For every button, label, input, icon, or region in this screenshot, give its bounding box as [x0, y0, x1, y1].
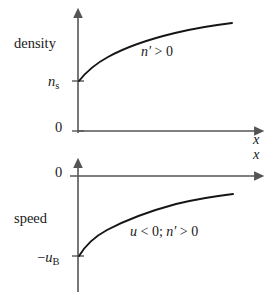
- density-annotation: n′ > 0: [141, 45, 173, 59]
- density-annotation-relation: > 0: [155, 44, 173, 59]
- figure-container: density ns 0 x n′ > 0 0 x speed −uB u < …: [0, 0, 279, 301]
- ub-subscript: B: [52, 256, 59, 267]
- speed-tick-label-zero: 0: [55, 165, 62, 180]
- speed-annotation-prime: ′: [173, 224, 176, 239]
- speed-annotation: u < 0; n′ > 0: [130, 225, 198, 239]
- ub-sign: −: [37, 249, 45, 265]
- speed-x-axis-label: x: [253, 147, 259, 162]
- density-annotation-prime: ′: [148, 44, 151, 59]
- density-annotation-variable: n: [141, 44, 148, 59]
- speed-tick-label-ub: −uB: [37, 250, 59, 267]
- density-panel-axes: [72, 16, 256, 133]
- density-tick-label-zero: 0: [55, 120, 62, 135]
- density-tick-label-ns: ns: [48, 74, 59, 91]
- density-x-axis-label: x: [253, 132, 259, 147]
- speed-annotation-rel2: > 0: [180, 224, 198, 239]
- speed-axis-label: speed: [14, 211, 47, 226]
- density-axis-label: density: [14, 36, 56, 51]
- speed-annotation-var1: u: [130, 224, 137, 239]
- speed-annotation-rel1: < 0;: [141, 224, 163, 239]
- ns-subscript: s: [55, 80, 59, 91]
